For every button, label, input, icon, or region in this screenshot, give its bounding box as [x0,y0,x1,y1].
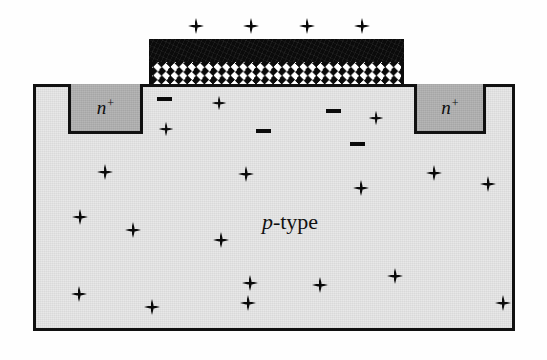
gate-oxide-layer [149,62,404,84]
n-plus-drain-label: n+ [441,96,458,119]
n-plus-drain-region: n+ [414,84,486,134]
n-plus-source-region: n+ [68,84,143,134]
gate-electrode [149,39,404,62]
gate-oxide-edge-right [401,62,404,84]
gate-oxide-edge-left [149,62,152,84]
inversion-negative-charge [157,97,172,100]
p-type-label: p-type [262,209,318,235]
mosfet-cross-section-figure: n+ n+ p-type [0,0,547,360]
inversion-negative-charge [256,129,271,132]
inversion-negative-charge [326,109,341,112]
inversion-negative-charge [350,142,365,145]
n-plus-source-label: n+ [97,96,114,119]
